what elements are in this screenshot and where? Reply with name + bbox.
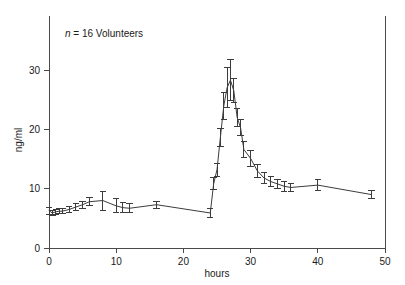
y-tick-label-0: 0 xyxy=(34,243,40,254)
x-tick-label-30: 30 xyxy=(245,256,257,267)
concentration-time-plot: 0102030 01020304050 ng/ml hours n = 16 V… xyxy=(0,0,405,285)
y-tick-label-20: 20 xyxy=(29,124,41,135)
x-tick-label-0: 0 xyxy=(46,256,52,267)
x-tick-label-40: 40 xyxy=(312,256,324,267)
axes-frame xyxy=(49,16,385,248)
x-axis-ticks: 01020304050 xyxy=(46,248,391,267)
y-tick-label-10: 10 xyxy=(29,183,41,194)
chart-figure: 0102030 01020304050 ng/ml hours n = 16 V… xyxy=(0,0,405,285)
x-tick-label-50: 50 xyxy=(379,256,391,267)
x-tick-label-10: 10 xyxy=(111,256,123,267)
y-axis-ticks: 0102030 xyxy=(29,65,49,254)
x-tick-label-20: 20 xyxy=(178,256,190,267)
error-bars-group xyxy=(46,59,375,217)
x-axis-title: hours xyxy=(204,268,229,279)
annotation-text: = 16 Volunteers xyxy=(71,28,144,39)
series-line-plasma-concentration xyxy=(49,80,372,213)
sample-size-annotation: n = 16 Volunteers xyxy=(65,28,143,39)
y-tick-label-30: 30 xyxy=(29,65,41,76)
y-axis-title: ng/ml xyxy=(13,128,24,152)
